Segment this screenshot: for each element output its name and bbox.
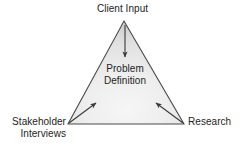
center-label-problem-definition: Problem Definition — [88, 63, 162, 86]
problem-definition-diagram: Client Input Problem Definition Stakehol… — [0, 0, 245, 147]
node-label-research: Research — [188, 116, 245, 128]
node-label-stakeholder-interviews: Stakeholder Interviews — [0, 116, 66, 139]
node-label-client-input: Client Input — [0, 3, 245, 15]
